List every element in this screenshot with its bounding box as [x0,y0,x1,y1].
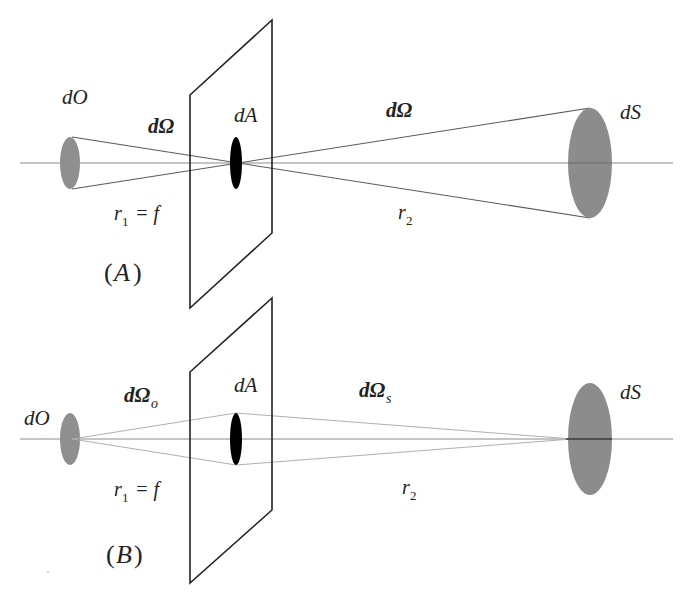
aperture-label: dA [234,103,258,127]
panel-label-a: ( A ) [104,258,142,287]
aperture-disk [230,137,242,189]
solid-angle-left-label: dΩ o [124,383,158,411]
ray-upper [72,413,572,439]
ray-lower [72,439,572,465]
r1-label: r 1 = f [114,202,161,229]
source-label: dS [620,100,642,124]
solid-angle-left-label: dΩ [148,114,175,138]
svg-text:2: 2 [410,488,417,503]
object-disk [60,137,80,189]
r2-label: r 2 [398,201,413,228]
svg-text:r: r [114,478,122,500]
solid-angle-right-label: dΩ [386,98,413,122]
r2-label: r 2 [402,476,417,503]
speck [47,571,49,573]
object-disk [60,413,80,465]
svg-text:): ) [133,258,142,287]
svg-text:1: 1 [122,490,129,505]
svg-text:r: r [398,201,406,223]
optics-diagram: dO dΩ dA dΩ dS r 1 = f r 2 ( A ) dO [0,0,691,601]
svg-text:dΩ: dΩ [124,383,151,407]
svg-text:): ) [134,540,143,569]
solid-angle-right-label: dΩ s [359,378,392,406]
object-label: dO [62,85,88,109]
r1-label: r 1 = f [114,478,161,505]
svg-text:2: 2 [406,213,413,228]
object-label: dO [24,406,50,430]
svg-text:o: o [151,396,158,411]
svg-text:= f: = f [135,202,161,225]
svg-text:A: A [112,258,130,287]
svg-text:r: r [114,202,122,224]
svg-text:B: B [116,540,132,569]
svg-text:dΩ: dΩ [359,378,386,402]
svg-text:(: ( [106,540,115,569]
svg-text:1: 1 [122,214,129,229]
aperture-label: dA [234,373,258,397]
panel-label-b: ( B ) [106,540,143,569]
svg-text:= f: = f [135,478,161,501]
svg-text:r: r [402,476,410,498]
source-label: dS [620,380,642,404]
panel-a: dO dΩ dA dΩ dS r 1 = f r 2 ( A ) [20,20,673,308]
svg-text:s: s [386,391,392,406]
svg-text:(: ( [104,258,113,287]
aperture-disk [230,413,242,465]
panel-b: dO dΩ o dA dΩ s dS r 1 = f r 2 ( B ) [20,298,673,583]
